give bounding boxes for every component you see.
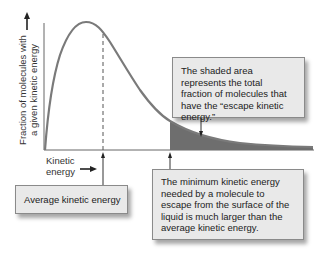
y-axis-arrow-icon <box>24 12 30 30</box>
x-axis-label: Kinetic energy <box>46 155 75 177</box>
x-axis-label-line2: energy <box>46 166 75 177</box>
y-axis-label: Fraction of molecules with a given kinet… <box>15 35 41 145</box>
y-axis-label-line1: Fraction of molecules with <box>17 30 28 150</box>
minimum-energy-callout: The minimum kinetic energy needed by a m… <box>152 169 304 240</box>
shaded-area-callout: The shaded area represents the total fra… <box>172 57 305 118</box>
average-energy-callout: Average kinetic energy <box>15 185 128 214</box>
y-axis-label-line2: a given kinetic energy <box>28 30 39 150</box>
x-axis-label-line1: Kinetic <box>46 155 75 166</box>
x-axis-arrow-icon <box>80 166 97 172</box>
average-callout-arrow-icon <box>101 152 105 185</box>
minimum-callout-arrow-icon <box>168 152 172 169</box>
